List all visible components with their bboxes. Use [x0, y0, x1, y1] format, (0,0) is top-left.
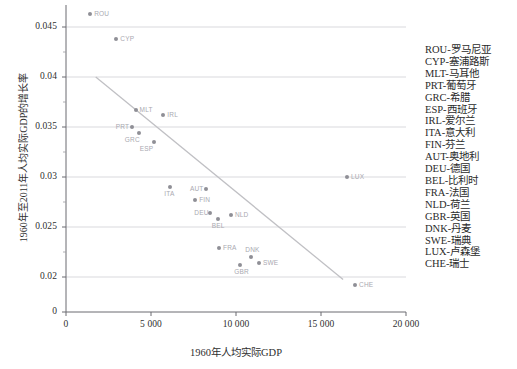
data-point[interactable] — [217, 246, 221, 250]
x-tick-label: 5 000 — [111, 319, 191, 329]
data-point-label: CYP — [120, 35, 134, 42]
legend-item: FRA-法国 — [425, 187, 517, 199]
data-point-label: IRL — [167, 111, 178, 118]
data-point[interactable] — [216, 217, 220, 221]
plot-area: 0.0450.040.0350.030.0250.020 05 00010 00… — [0, 0, 420, 330]
legend-item: NLD-荷兰 — [425, 199, 517, 211]
data-point[interactable] — [114, 37, 118, 41]
legend-item: MLT-马耳他 — [425, 68, 517, 80]
legend-item: GBR-英国 — [425, 211, 517, 223]
y-tick-label: 0.02 — [0, 271, 57, 281]
legend-item: CHE-瑞士 — [425, 258, 517, 270]
data-point-label: FRA — [223, 244, 237, 251]
data-point-label: SWE — [263, 259, 278, 266]
legend-item: GRC-希腊 — [425, 92, 517, 104]
x-axis-ticks — [66, 312, 406, 316]
y-tick-label: 0.045 — [0, 21, 57, 31]
data-point-label: NLD — [235, 211, 249, 218]
legend-item: ESP-西班牙 — [425, 104, 517, 116]
data-point-label: MLT — [140, 106, 153, 113]
data-point-label: ITA — [164, 190, 174, 197]
legend-item: BEL-比利时 — [425, 175, 517, 187]
data-point-label: ROU — [94, 10, 109, 17]
legend: ROU-罗马尼亚CYP-塞浦路斯MLT-马耳他PRT-葡萄牙GRC-希腊ESP-… — [425, 44, 517, 270]
x-tick-label: 15 000 — [281, 319, 361, 329]
legend-item: ROU-罗马尼亚 — [425, 44, 517, 56]
data-point[interactable] — [204, 187, 208, 191]
data-point-label: GBR — [234, 268, 249, 275]
data-point[interactable] — [152, 140, 156, 144]
data-point-label: ESP — [140, 145, 154, 152]
data-point[interactable] — [134, 108, 138, 112]
legend-item: IRL-爱尔兰 — [425, 115, 517, 127]
data-point-label: DNK — [245, 246, 259, 253]
legend-item: FIN-芬兰 — [425, 139, 517, 151]
data-point-label: CHE — [359, 281, 373, 288]
data-point-label: PRT — [116, 123, 129, 130]
data-point-label: BEL — [212, 222, 225, 229]
data-point[interactable] — [137, 131, 141, 135]
legend-item: DNK-丹麦 — [425, 223, 517, 235]
legend-item: LUX-卢森堡 — [425, 246, 517, 258]
gridlines — [66, 27, 406, 277]
chart-container: 0.0450.040.0350.030.0250.020 05 00010 00… — [0, 0, 517, 369]
data-point[interactable] — [345, 175, 349, 179]
data-point[interactable] — [88, 12, 92, 16]
x-axis-title: 1960年人均实际GDP — [66, 344, 406, 359]
x-tick-label: 0 — [26, 319, 106, 329]
data-point[interactable] — [130, 125, 134, 129]
data-point-label: GRC — [125, 136, 140, 143]
data-point[interactable] — [257, 261, 261, 265]
x-tick-label: 20 000 — [366, 319, 446, 329]
data-point-label: FIN — [199, 196, 210, 203]
y-tick-label: 0 — [0, 306, 57, 316]
data-point-label: DEU — [194, 209, 208, 216]
legend-item: DEU-德国 — [425, 163, 517, 175]
data-point[interactable] — [229, 213, 233, 217]
plot-canvas — [0, 0, 420, 330]
legend-item: CYP-塞浦路斯 — [425, 56, 517, 68]
y-axis-ticks — [62, 27, 66, 312]
x-tick-label: 10 000 — [196, 319, 276, 329]
legend-item: SWE-瑞典 — [425, 235, 517, 247]
legend-item: ITA-意大利 — [425, 127, 517, 139]
legend-item: AUT-奥地利 — [425, 151, 517, 163]
data-point[interactable] — [353, 283, 357, 287]
data-point-label: LUX — [351, 173, 364, 180]
data-point-label: AUT — [190, 185, 204, 192]
legend-item: PRT-葡萄牙 — [425, 80, 517, 92]
y-axis-title: 1960年至2011年人均实际GDP的增长率 — [15, 43, 30, 273]
